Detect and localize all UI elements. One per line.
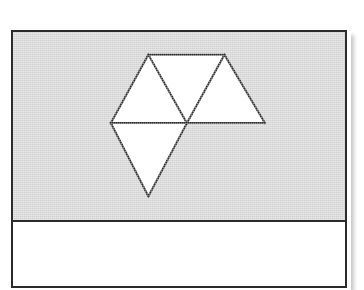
framed-figure-card — [11, 30, 347, 288]
caption-band — [13, 222, 345, 286]
tetrahedron-net-figure — [13, 32, 345, 220]
diagram-panel — [13, 32, 345, 222]
triangle-face-lower — [111, 123, 187, 196]
